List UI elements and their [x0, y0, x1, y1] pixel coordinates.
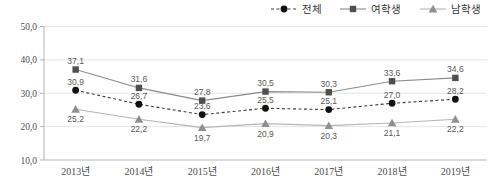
y-axis-tick-label: 50,0	[20, 22, 37, 32]
series-2-marker	[451, 115, 460, 123]
legend-label: 전체	[302, 3, 322, 15]
series-0-marker	[136, 101, 143, 108]
data-label: 27,8	[194, 87, 211, 97]
data-label: 37,1	[67, 56, 84, 66]
series-0-marker	[452, 96, 459, 103]
legend-circle-marker-icon	[281, 6, 288, 13]
data-label: 25,5	[257, 95, 274, 105]
data-label: 25,1	[321, 96, 338, 106]
data-label: 19,7	[194, 133, 211, 143]
data-label: 20,9	[257, 129, 274, 139]
series-0-marker	[389, 100, 396, 107]
legend-item-0: 전체	[271, 3, 322, 15]
y-axis-tick-label: 40,0	[20, 55, 37, 65]
data-label: 22,2	[131, 124, 148, 134]
legend-square-marker-icon	[350, 6, 356, 12]
x-axis-tick-label: 2016년	[251, 166, 280, 177]
data-label: 27,0	[384, 90, 401, 100]
x-axis-tick-label: 2014년	[124, 166, 153, 177]
series-0-marker	[325, 106, 332, 113]
data-label: 30,9	[67, 77, 84, 87]
line-chart: 10,020,030,040,050,02013년2014년2015년2016년…	[0, 0, 491, 191]
series-1-marker	[136, 85, 142, 91]
legend-item-2: 남학생	[420, 3, 481, 15]
series-2-marker	[71, 105, 80, 113]
y-axis-tick-label: 10,0	[20, 156, 37, 166]
data-label: 31,6	[131, 74, 148, 84]
data-label: 30,3	[321, 79, 338, 89]
series-1-marker	[452, 75, 458, 81]
series-1-marker	[262, 88, 268, 94]
data-label: 20,3	[321, 131, 338, 141]
data-label: 30,5	[257, 78, 274, 88]
data-label: 26,7	[131, 91, 148, 101]
x-axis-tick-label: 2015년	[188, 166, 217, 177]
x-axis-tick-label: 2018년	[378, 166, 407, 177]
legend-label: 남학생	[451, 3, 481, 15]
data-label: 22,2	[447, 124, 464, 134]
y-axis-tick-label: 20,0	[20, 122, 37, 132]
series-0-marker	[262, 105, 269, 112]
data-label: 25,2	[67, 114, 84, 124]
legend-item-1: 여학생	[340, 3, 401, 15]
x-axis-tick-label: 2013년	[61, 166, 90, 177]
legend-label: 여학생	[371, 3, 401, 15]
chart-svg: 10,020,030,040,050,02013년2014년2015년2016년…	[0, 0, 491, 191]
data-label: 33,6	[384, 68, 401, 78]
series-1-marker	[326, 89, 332, 95]
x-axis-tick-label: 2019년	[441, 166, 470, 177]
series-0-marker	[72, 87, 79, 94]
series-1-marker	[72, 66, 78, 72]
series-1-marker	[389, 78, 395, 84]
series-0-marker	[199, 111, 206, 118]
y-axis-tick-label: 30,0	[20, 89, 37, 99]
x-axis-tick-label: 2017년	[314, 166, 343, 177]
data-label: 21,1	[384, 128, 401, 138]
legend: 전체여학생남학생	[271, 3, 481, 15]
series-1-marker	[199, 97, 205, 103]
line-chart-figure: 10,020,030,040,050,02013년2014년2015년2016년…	[0, 0, 491, 191]
data-label: 28,2	[447, 86, 464, 96]
data-label: 34,6	[447, 64, 464, 74]
